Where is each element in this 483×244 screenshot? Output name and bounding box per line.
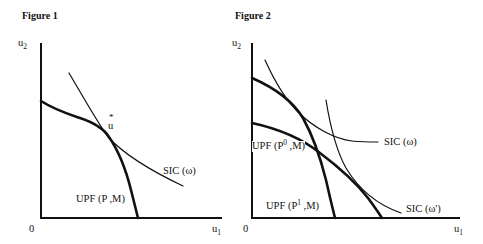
fig2-x-axis-label: u1 — [454, 224, 463, 235]
fig1-x-axis-label: u1 — [212, 224, 221, 235]
fig1-y-axis-label-sub: 2 — [23, 42, 27, 51]
fig2-upf-p1-label: UPF (P1 ,M) — [266, 201, 319, 212]
fig2-sic-omega-prime-curve — [326, 100, 401, 213]
fig1-y-axis-label: u2 — [18, 38, 27, 49]
fig1-sic-label: SIC (ω) — [163, 166, 196, 177]
fig2-sic-omega-label: SIC (ω) — [384, 137, 417, 148]
fig2-sic-omega-prime-label: SIC (ω') — [406, 204, 441, 215]
fig2-x-axis-label-sub: 1 — [459, 228, 463, 237]
figure-2-axes — [251, 43, 460, 218]
fig2-y-axis-label: u2 — [232, 38, 241, 49]
fig2-upf-p1-label-suffix: ,M) — [301, 200, 319, 211]
fig2-upf-p0-label-prefix: UPF (P — [252, 140, 283, 151]
fig2-origin-label: 0 — [243, 224, 248, 235]
fig2-upf-p0-label: UPF (P0 ,M) — [252, 141, 305, 152]
fig2-upf-p0-label-sup: 0 — [283, 138, 287, 147]
fig2-upf-p0-label-suffix: ,M) — [287, 140, 305, 151]
fig1-origin-label: 0 — [29, 224, 34, 235]
fig2-y-axis-label-sub: 2 — [237, 42, 241, 51]
fig1-optimum-label: u — [108, 121, 113, 132]
fig1-upf-label: UPF (P ,M) — [76, 194, 125, 205]
figure-2-title: Figure 2 — [235, 10, 271, 21]
fig2-upf-p1-label-sup: 1 — [297, 198, 301, 207]
fig1-x-axis-label-sub: 1 — [217, 228, 221, 237]
figure-1-title: Figure 1 — [22, 10, 58, 21]
fig2-upf-p1-label-prefix: UPF (P — [266, 200, 297, 211]
fig2-sic-omega-curve — [265, 60, 378, 142]
